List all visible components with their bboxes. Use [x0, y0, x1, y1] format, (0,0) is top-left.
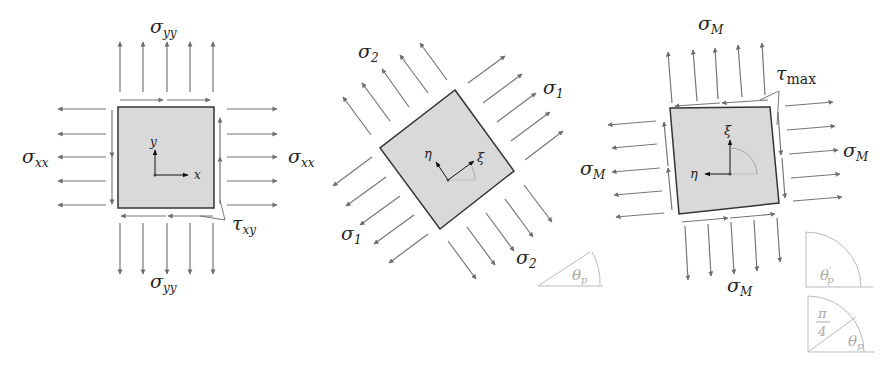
sigma-m-right-label: σM	[843, 139, 869, 164]
eta-axis-label: η	[424, 146, 432, 161]
panel-original-element: x y σyy σyy σxx σxx τxy	[22, 15, 315, 295]
y-axis-label: y	[149, 135, 157, 149]
normal-stress-arrows-top	[120, 42, 213, 92]
sigma-m-top-label: σM	[698, 12, 724, 37]
tau-max-label: τmax	[776, 62, 816, 87]
theta-p-prime-inset: θ′p	[806, 232, 873, 287]
sigma-xx-right-label: σxx	[288, 145, 315, 170]
sigma-yy-top-label: σyy	[150, 15, 177, 40]
eta-axis-label-rotated: η	[690, 166, 698, 181]
sigma-m-bottom-label: σM	[727, 274, 753, 299]
sigma-m-arrows-bottom	[685, 218, 780, 280]
sigma-1-top-right-label: σ1	[543, 76, 564, 101]
x-axis-label: x	[194, 168, 201, 182]
principal-element-square	[380, 90, 514, 229]
theta-p-prime-label: θ′p	[820, 265, 834, 285]
panel-principal-element: ξ η σ2 σ1 σ1 σ2 θp	[333, 40, 603, 286]
pi-over-4-inset: π 4 θp	[808, 296, 875, 352]
sigma-m-arrows-left	[608, 121, 664, 217]
sigma-2-bottom-right-label: σ2	[516, 246, 537, 271]
normal-stress-arrows-left	[58, 109, 106, 205]
stress-element-square	[118, 107, 214, 208]
sigma-m-left-label: σM	[580, 157, 606, 182]
theta-p-inset: θp	[538, 252, 603, 286]
normal-stress-arrows-right	[227, 109, 277, 205]
sigma-m-arrows-top	[668, 43, 765, 103]
pi-numerator: π	[817, 306, 827, 321]
tau-xy-label: τxy	[232, 212, 256, 237]
normal-stress-arrows-bottom	[120, 223, 213, 274]
xi-axis-label-rotated: ξ	[724, 123, 732, 138]
xi-axis-label: ξ	[477, 150, 485, 165]
sigma-2-top-left-label: σ2	[358, 40, 379, 65]
pi-denominator: 4	[817, 324, 826, 339]
sigma-xx-left-label: σxx	[22, 145, 49, 170]
panel-max-shear-element: ξ η σM σM σM σM τmax θ′p π 4 θp	[580, 12, 875, 352]
sigma-m-arrows-right	[785, 102, 842, 201]
theta-p-label: θp	[572, 266, 588, 285]
sigma-yy-bottom-label: σyy	[150, 270, 177, 295]
stress-transformation-diagram: x y σyy σyy σxx σxx τxy	[0, 0, 892, 375]
sigma-1-bottom-left-label: σ1	[341, 222, 362, 247]
